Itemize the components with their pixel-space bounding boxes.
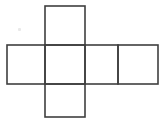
bottom-square [45, 84, 85, 117]
band-square-right [85, 45, 118, 84]
figure-canvas [0, 0, 165, 122]
cube-net-diagram [0, 0, 165, 122]
band-square-far-right [118, 45, 158, 84]
speck-mark [18, 28, 21, 31]
band-square-center [45, 45, 85, 84]
band-square-left [7, 45, 45, 84]
top-square [45, 6, 85, 45]
